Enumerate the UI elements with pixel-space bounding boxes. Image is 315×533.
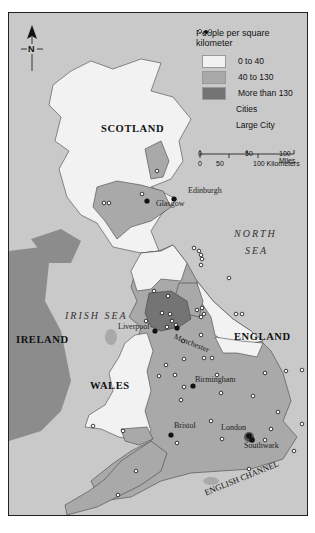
legend-label: Large City bbox=[236, 120, 275, 130]
label-north-sea-2: SEA bbox=[245, 245, 268, 256]
scale-line bbox=[196, 150, 308, 158]
legend-label: 0 to 40 bbox=[238, 56, 264, 66]
scale-km-100: 100 Kilometers bbox=[253, 160, 300, 167]
label-bristol: Bristol bbox=[174, 421, 196, 430]
scale-km-0: 0 bbox=[198, 160, 202, 167]
label-glasgow: Glasgow bbox=[156, 199, 184, 208]
swatch-medium bbox=[202, 71, 226, 84]
legend-item-high: More than 130 bbox=[196, 85, 308, 101]
legend-label: Cities bbox=[236, 104, 257, 114]
compass-label: N bbox=[28, 44, 35, 54]
legend-item-cities: Cities bbox=[196, 101, 308, 117]
label-birmingham: Birmingham bbox=[195, 375, 235, 384]
label-north-sea-1: NORTH bbox=[234, 228, 277, 239]
label-irish-sea: IRISH SEA bbox=[65, 310, 128, 321]
legend-label: 40 to 130 bbox=[238, 72, 273, 82]
legend-item-large-city: Large City bbox=[196, 117, 308, 133]
scale-bar: 0 50 100 Miles 0 50 100 Kilometers bbox=[196, 150, 308, 170]
legend-item-medium: 40 to 130 bbox=[196, 69, 308, 85]
label-southwark: Southwark bbox=[244, 441, 279, 450]
legend-item-low: 0 to 40 bbox=[196, 53, 308, 69]
legend: People per square kilometer 0 to 40 40 t… bbox=[196, 28, 308, 133]
label-london: London bbox=[221, 423, 246, 432]
label-scotland: SCOTLAND bbox=[101, 123, 164, 134]
label-edinburgh: Edinburgh bbox=[188, 186, 222, 195]
scale-km-50: 50 bbox=[216, 160, 224, 167]
legend-label: More than 130 bbox=[238, 88, 293, 98]
label-ireland: IRELAND bbox=[16, 334, 69, 345]
isle-of-man bbox=[105, 329, 117, 345]
swatch-high bbox=[202, 87, 226, 100]
label-wales: WALES bbox=[90, 380, 130, 391]
swatch-low bbox=[202, 55, 226, 68]
label-liverpool: Liverpool bbox=[118, 322, 150, 331]
label-england: ENGLAND bbox=[234, 331, 291, 342]
